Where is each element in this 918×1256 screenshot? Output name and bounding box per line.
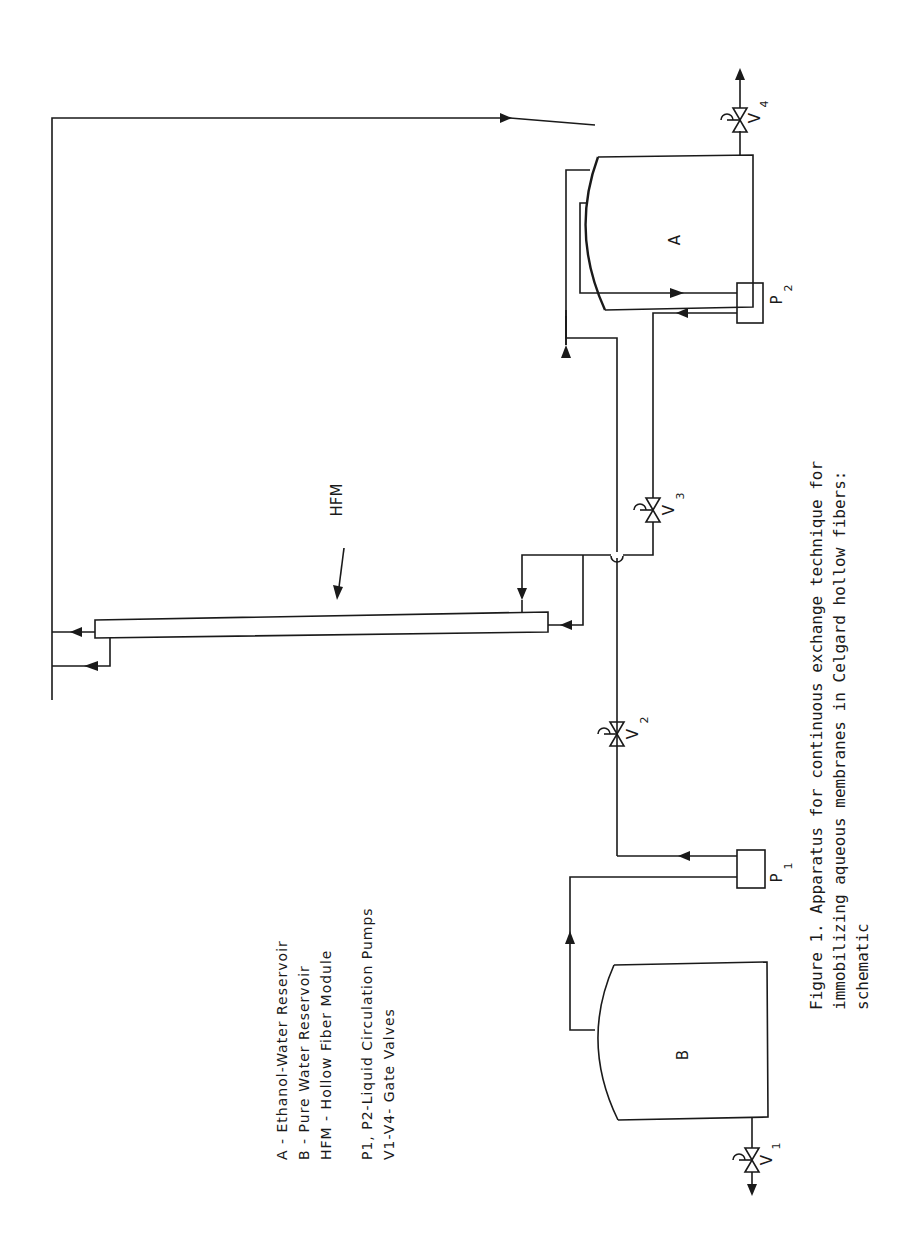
caption-line-3: schematic: [853, 923, 872, 1010]
pump-p1-sub: 1: [782, 863, 795, 870]
tank-a-label: A: [666, 234, 684, 245]
arrow-up-icon: [735, 68, 745, 80]
p2-to-v3-line: [653, 308, 737, 498]
legend-item-hfm: HFM - Hollow Fiber Module: [318, 950, 334, 1161]
valve-v2[interactable]: V 2: [598, 717, 651, 747]
figure-canvas: A V 4 P 2: [0, 0, 918, 1256]
main-riser: [566, 316, 623, 856]
valve-v4-sub: 4: [758, 101, 771, 108]
valve-v2-label: V: [624, 728, 642, 739]
pump-p1-label: P: [768, 873, 786, 882]
valve-v3-sub: 3: [674, 493, 687, 500]
legend: A - Ethanol-Water Reservoir B - Pure Wat…: [274, 907, 397, 1160]
arrow-left-icon: [678, 851, 690, 861]
arrow-left-icon: [84, 661, 98, 671]
pump-p2[interactable]: P 2: [737, 283, 795, 323]
legend-item-pumps: P1, P2-Liquid Circulation Pumps: [359, 907, 375, 1160]
arrow-left-icon: [560, 620, 572, 630]
arrow-right-icon: [670, 288, 684, 298]
hfm-module[interactable]: [95, 612, 548, 638]
hfm-label-group: HFM: [328, 484, 346, 600]
caption-line-2: immobilizing aqueous membranes in Celgar…: [830, 471, 849, 1010]
pump-p1[interactable]: P 1: [737, 850, 795, 888]
arrow-down-icon: [333, 585, 343, 600]
valve-v4[interactable]: V 4: [721, 68, 771, 155]
arrow-left-icon: [676, 308, 688, 318]
valve-v3-label: V: [660, 504, 678, 515]
arrow-left-icon: [70, 627, 82, 637]
arrow-down-icon: [747, 1184, 757, 1196]
pump-p2-sub: 2: [782, 285, 795, 292]
tank-b-label: B: [674, 1050, 692, 1060]
valve-v1[interactable]: V 1: [733, 1118, 783, 1196]
valve-v4-label: V: [746, 112, 764, 123]
valve-v1-label: V: [758, 1154, 776, 1165]
tank-b-to-p1-line: [565, 877, 737, 1030]
pump-p2-label: P: [768, 295, 786, 304]
v3-to-hfm-line: [517, 522, 653, 630]
schematic-diagram: A V 4 P 2: [0, 0, 918, 1256]
arrow-up-icon: [565, 931, 575, 944]
legend-item-a: A - Ethanol-Water Reservoir: [274, 940, 290, 1160]
arrow-down-icon: [517, 588, 527, 600]
arrow-right-icon: [500, 113, 512, 123]
valve-v1-sub: 1: [770, 1143, 783, 1150]
p1-to-riser-line: [617, 851, 737, 861]
caption-line-1: Figure 1. Apparatus for continuous excha…: [807, 461, 826, 1010]
valve-v2-sub: 2: [638, 717, 651, 724]
hfm-label: HFM: [328, 484, 346, 517]
tank-b: B: [598, 962, 768, 1120]
legend-item-b: B - Pure Water Reservoir: [296, 965, 312, 1160]
arrow-up-icon: [561, 345, 571, 358]
valve-v3[interactable]: V 3: [634, 493, 687, 523]
legend-item-valves: V1-V4- Gate Valves: [381, 1008, 397, 1160]
tank-a: A: [586, 155, 753, 310]
figure-caption: Figure 1. Apparatus for continuous excha…: [807, 461, 872, 1010]
hfm-left-outlets: [52, 627, 110, 671]
